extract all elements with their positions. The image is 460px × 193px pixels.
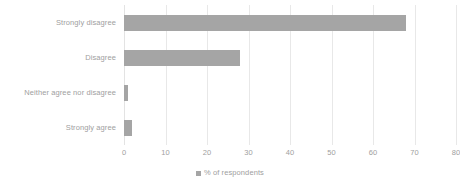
bar-row	[124, 110, 456, 145]
legend-item-pct-of-respondents[interactable]: % of respondents	[196, 168, 264, 178]
bar-strongly-disagree[interactable]	[124, 15, 406, 31]
bar-disagree[interactable]	[124, 50, 240, 66]
x-tick-80: 80	[452, 147, 460, 158]
bar-row	[124, 40, 456, 75]
x-tick-10: 10	[161, 147, 169, 158]
legend-label: % of respondents	[204, 168, 264, 178]
category-label-strongly-disagree: Strongly disagree	[56, 18, 116, 28]
category-label-disagree: Disagree	[85, 53, 116, 63]
x-tick-70: 70	[410, 147, 418, 158]
value-axis: 0 10 20 30 40 50 60 70 80	[124, 147, 456, 161]
gridline-80	[456, 5, 457, 145]
x-tick-20: 20	[203, 147, 211, 158]
plot-area	[124, 5, 456, 145]
x-tick-50: 50	[327, 147, 335, 158]
legend-swatch-icon	[196, 171, 201, 176]
bar-strongly-agree[interactable]	[124, 120, 132, 136]
bar-row	[124, 5, 456, 40]
bar-row	[124, 75, 456, 110]
category-label-neither-agree-nor-disagree: Neither agree nor disagree	[24, 88, 116, 98]
bar-neither-agree-nor-disagree[interactable]	[124, 85, 128, 101]
x-tick-60: 60	[369, 147, 377, 158]
x-tick-40: 40	[286, 147, 294, 158]
category-axis: Strongly disagree Disagree Neither agree…	[0, 5, 120, 145]
x-tick-30: 30	[244, 147, 252, 158]
chart-legend: % of respondents	[0, 168, 460, 178]
x-tick-0: 0	[122, 147, 126, 158]
bar-chart: Strongly disagree Disagree Neither agree…	[0, 0, 460, 193]
category-label-strongly-agree: Strongly agree	[66, 123, 116, 133]
